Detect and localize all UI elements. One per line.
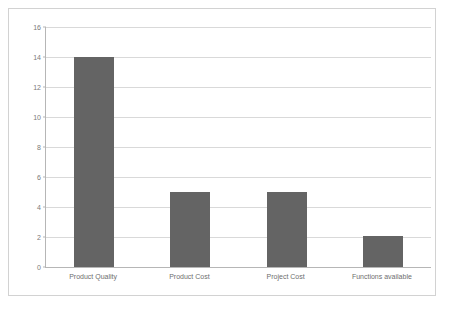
y-axis-tick-label: 14 [33, 54, 41, 61]
y-axis-tick-label: 10 [33, 114, 41, 121]
y-axis-tick-label: 4 [37, 204, 41, 211]
y-axis-tick-label: 16 [33, 24, 41, 31]
y-axis-tick-label: 2 [37, 234, 41, 241]
chart-frame: 1614121086420 Product QualityProduct Cos… [8, 8, 436, 296]
bar[interactable] [170, 192, 210, 267]
y-axis-tick-label: 0 [37, 264, 41, 271]
x-axis-category-label: Functions available [352, 273, 412, 280]
x-axis-category-label: Product Quality [69, 273, 117, 280]
gridline [46, 267, 431, 268]
y-axis-tick-label: 12 [33, 84, 41, 91]
bar[interactable] [74, 57, 114, 267]
y-axis-tick-label: 8 [37, 144, 41, 151]
bar-slot [46, 27, 142, 267]
bar-slot [239, 27, 335, 267]
bars-layer [46, 27, 431, 267]
x-axis-category-label: Product Cost [169, 273, 209, 280]
bar-slot [142, 27, 238, 267]
bar-slot [335, 27, 431, 267]
y-axis-tick-label: 6 [37, 174, 41, 181]
x-axis-category-label: Project Cost [267, 273, 305, 280]
bar[interactable] [267, 192, 307, 267]
bar[interactable] [363, 236, 403, 268]
plot-area: 1614121086420 [45, 27, 431, 268]
category-axis: Product QualityProduct CostProject CostF… [45, 270, 431, 290]
